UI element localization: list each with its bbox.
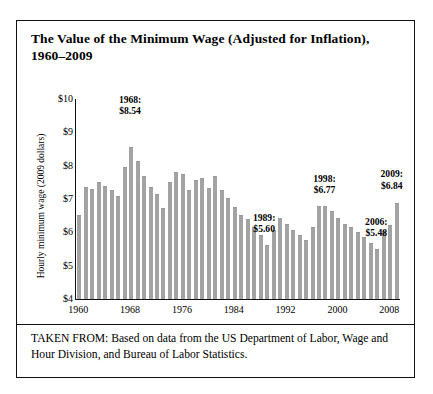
annotation-year: 2009: [381,168,403,179]
source-divider [17,324,414,325]
x-axis-tick: 1960 [68,304,88,315]
bar [323,206,327,299]
bar [90,189,94,299]
bar [311,227,315,299]
bar [136,161,140,299]
bar-annotation: 1968:$8.54 [119,94,141,116]
bar [129,147,133,299]
bar [168,182,172,299]
bar-annotation: 2006:$5.48 [365,216,387,238]
bar [330,211,334,299]
y-axis-tick-labels: $10$9$8$7$6$5$4 [43,99,73,299]
bar [110,190,114,299]
bar [142,176,146,299]
bar [317,206,321,299]
bar-annotation: 1989:$5.60 [253,212,275,234]
bar [349,227,353,299]
bar-series [76,99,400,299]
annotation-year: 1998: [313,173,335,184]
bar [259,235,263,299]
y-axis-tick: $6 [63,227,73,237]
bar [200,178,204,299]
y-axis-tick: $5 [63,261,73,271]
x-axis-tick: 1976 [172,304,192,315]
bar [252,227,256,299]
bar [356,232,360,299]
x-axis-tick: 2008 [379,304,399,315]
annotation-year: 1989: [253,212,275,223]
bar [246,219,250,299]
bar [388,225,392,299]
bar [155,194,159,299]
bar [291,230,295,299]
y-axis-tick: $7 [63,194,73,204]
bar [174,172,178,299]
bar [298,235,302,299]
x-axis-tick: 2000 [327,304,347,315]
annotation-value: $6.84 [381,180,403,191]
bar [362,237,366,299]
bar [84,187,88,299]
bar [382,231,386,299]
bar [343,224,347,299]
annotation-value: $5.48 [365,227,387,238]
bar [265,245,269,299]
x-axis-tick-labels: 1960196819761984199220002008 [75,304,399,320]
figure-frame: The Value of the Minimum Wage (Adjusted … [16,20,415,378]
bar [395,203,399,299]
bar [97,182,101,299]
y-axis-tick: $4 [63,294,73,304]
y-axis-tick: $9 [63,127,73,137]
y-axis-tick: $10 [58,94,73,104]
plot-inner-axes [75,99,400,300]
annotation-year: 2006: [365,216,387,227]
annotation-year: 1968: [119,94,141,105]
bar [304,240,308,299]
bar [369,243,373,299]
bar [181,174,185,299]
bar [220,190,224,299]
bar [103,186,107,299]
bar [116,196,120,299]
bar [336,218,340,299]
bar-annotation: 2009:$6.84 [381,168,403,190]
bar [194,180,198,299]
bar [233,207,237,299]
bar [149,187,153,299]
bar [272,230,276,299]
annotation-value: $8.54 [119,105,141,116]
annotation-value: $5.60 [253,223,275,234]
bar [187,190,191,299]
chart-plot-area: Hourly minimum wage (2009 dollars) $10$9… [17,21,416,321]
bar [226,198,230,299]
bar [239,215,243,299]
bar [123,167,127,299]
y-axis-tick: $8 [63,161,73,171]
x-axis-tick: 1968 [120,304,140,315]
bar [375,249,379,299]
x-axis-tick: 1984 [224,304,244,315]
source-note: TAKEN FROM: Based on data from the US De… [31,331,401,363]
bar [207,188,211,299]
annotation-value: $6.77 [313,184,335,195]
bar [278,218,282,299]
bar [213,176,217,299]
x-axis-tick: 1992 [276,304,296,315]
bar [161,208,165,299]
bar [285,224,289,299]
bar-annotation: 1998:$6.77 [313,173,335,195]
bar [77,215,81,299]
